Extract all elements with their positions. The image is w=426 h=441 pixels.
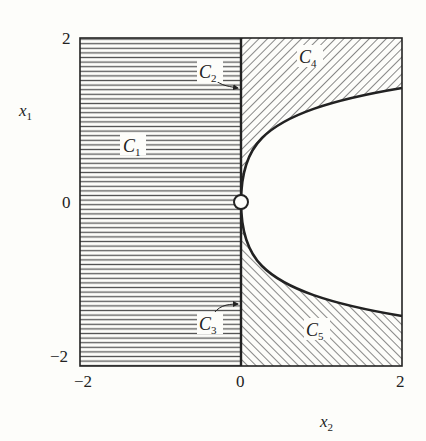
y-tick-0: 0 xyxy=(62,193,71,212)
y-tick-neg2: −2 xyxy=(50,347,68,366)
x-tick-2: 2 xyxy=(396,372,405,391)
x-tick-0: 0 xyxy=(236,372,245,391)
origin-marker-icon xyxy=(234,195,248,209)
x-tick-neg2: −2 xyxy=(74,372,92,391)
x-axis-label: x2 xyxy=(319,412,333,433)
diagram-canvas: C1 C2 C3 C4 C5 2 0 −2 −2 0 2 x1 x2 xyxy=(0,0,426,441)
y-axis-label: x1 xyxy=(18,101,32,122)
y-tick-2: 2 xyxy=(62,29,71,48)
